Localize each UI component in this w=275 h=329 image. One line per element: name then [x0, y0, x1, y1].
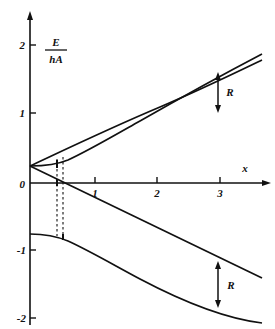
- dashed-guides-group: [57, 157, 63, 240]
- annotation-lower-R: R: [215, 261, 235, 308]
- y-ticklabel-minus1: -1: [17, 244, 26, 256]
- y-axis-label-denominator: hA: [49, 53, 62, 65]
- x-ticklabel-3: 3: [216, 187, 223, 199]
- lower-R-arrowhead-bottom: [215, 300, 221, 308]
- figure-container: 2 1 0 -1 -2 1 2 3 x E hA R: [0, 0, 275, 329]
- x-ticklabel-2: 2: [153, 187, 160, 199]
- upper-R-arrowhead-bottom: [215, 105, 221, 113]
- axes-group: [27, 11, 271, 325]
- y-axis-ticks: [30, 45, 36, 318]
- upper-R-label: R: [225, 86, 233, 98]
- lower-R-label: R: [226, 279, 234, 291]
- x-axis-ticks: [95, 177, 220, 183]
- y-ticklabel-minus2: -2: [17, 312, 27, 324]
- lower-R-arrowhead-top: [215, 261, 221, 269]
- y-axis-label-numerator: E: [51, 36, 59, 48]
- curve-upper-branch-1: [30, 60, 262, 166]
- y-axis-label-fraction: E hA: [45, 36, 67, 65]
- y-ticklabel-1: 1: [20, 107, 26, 119]
- y-axis-arrowhead: [27, 11, 33, 20]
- y-ticklabel-2: 2: [19, 39, 26, 51]
- x-axis-arrowhead: [262, 180, 271, 186]
- x-axis-label: x: [241, 162, 248, 174]
- energy-band-plot: 2 1 0 -1 -2 1 2 3 x E hA R: [0, 0, 275, 329]
- y-ticklabel-0: 0: [20, 178, 26, 190]
